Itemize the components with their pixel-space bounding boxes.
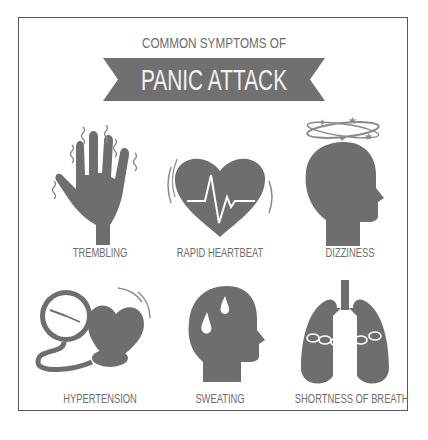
chained-lungs-icon: [295, 278, 395, 392]
svg-text:★: ★: [348, 116, 357, 126]
trembling-hand-icon: [52, 125, 152, 249]
page-title: PANIC ATTACK: [134, 64, 294, 96]
symptom-label-sweating: SWEATING: [177, 392, 263, 406]
symptom-label-shortness-of-breath: SHORTNESS OF BREATH: [295, 392, 400, 406]
svg-text:✦: ✦: [318, 117, 326, 128]
heartbeat-icon: [165, 145, 275, 249]
blood-pressure-icon: [34, 282, 154, 386]
symptom-label-rapid-heartbeat: RAPID HEARTBEAT: [173, 246, 267, 260]
symptom-label-dizziness: DIZZINESS: [303, 246, 397, 260]
symptom-label-hypertension: HYPERTENSION: [53, 392, 147, 406]
symptom-label-trembling: TREMBLING: [53, 246, 147, 260]
svg-text:★: ★: [364, 131, 373, 142]
dizzy-head-icon: ✦★★✦: [298, 116, 398, 250]
title-banner: PANIC ATTACK: [103, 58, 325, 101]
subtitle: COMMON SYMPTOMS OF: [47, 34, 381, 51]
sweating-head-icon: [185, 282, 265, 386]
